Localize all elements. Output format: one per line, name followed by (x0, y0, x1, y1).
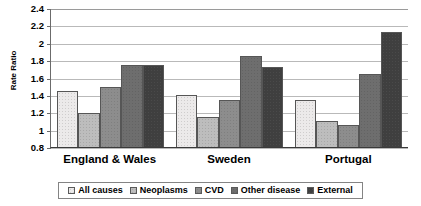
y-axis-tick-label: 1.6 (31, 74, 44, 84)
legend-item: Other disease (231, 186, 301, 195)
bar (176, 95, 198, 147)
legend-item: External (307, 186, 353, 195)
y-axis-tick-label: 0.8 (31, 143, 44, 153)
legend-item: All causes (68, 186, 123, 195)
bar (240, 56, 262, 147)
bar (78, 113, 100, 148)
bar (359, 74, 381, 147)
bar-chart: Rate Ratio 2.42.221.81.61.41.210.8 Engla… (0, 0, 421, 206)
y-axis-tick-label: 1.4 (31, 91, 44, 101)
bar (121, 65, 143, 147)
legend-label: Neoplasms (140, 186, 188, 195)
bar-group (51, 9, 170, 147)
legend-item: Neoplasms (130, 186, 188, 195)
legend-label: Other disease (241, 186, 301, 195)
y-axis-title: Rate Ratio (9, 28, 18, 114)
legend-item: CVD (195, 186, 224, 195)
y-axis-tick-label: 1.8 (31, 56, 44, 66)
bar (262, 67, 284, 147)
legend-swatch-icon (231, 187, 238, 194)
bar-group (170, 9, 289, 147)
bar (197, 117, 219, 147)
y-axis-tick-label: 2.2 (31, 22, 44, 32)
y-axis-tick-label: 1 (39, 126, 44, 136)
x-axis-category-labels: England & WalesSwedenPortugal (50, 150, 408, 168)
y-axis-tick-label: 2 (39, 39, 44, 49)
y-axis-tick-mark (47, 148, 51, 149)
legend-swatch-icon (307, 187, 314, 194)
x-axis-category-label: England & Wales (50, 150, 169, 168)
x-axis-category-label: Portugal (289, 150, 408, 168)
legend-label: CVD (205, 186, 224, 195)
bar (381, 32, 403, 147)
plot-area: 2.42.221.81.61.41.210.8 (50, 9, 408, 148)
legend-swatch-icon (195, 187, 202, 194)
x-axis-category-label: Sweden (169, 150, 288, 168)
bar-groups (51, 9, 408, 147)
bar-group (289, 9, 408, 147)
y-axis-tick-label: 2.4 (31, 4, 44, 14)
legend-swatch-icon (68, 187, 75, 194)
y-axis-tick-label: 1.2 (31, 109, 44, 119)
bar (316, 121, 338, 147)
chart-legend: All causesNeoplasmsCVDOther diseaseExter… (58, 182, 363, 199)
bar (219, 100, 241, 147)
bar (100, 87, 122, 147)
legend-swatch-icon (130, 187, 137, 194)
gridline (51, 148, 408, 149)
bar (143, 65, 165, 147)
bar (295, 100, 317, 147)
bar (57, 91, 79, 147)
bar (338, 125, 360, 147)
legend-label: External (317, 186, 353, 195)
legend-label: All causes (78, 186, 123, 195)
